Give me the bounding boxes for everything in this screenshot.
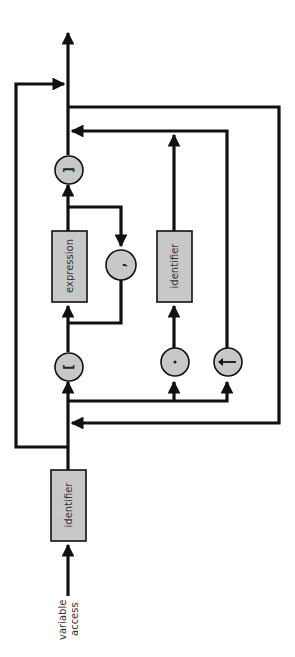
open-bracket-glyph: [ [62, 364, 76, 369]
expression-box: expression [52, 231, 87, 302]
pointer-terminal [214, 348, 242, 376]
syntax-diagram: identifier [ expression , ] [0, 0, 295, 657]
dot-terminal [161, 348, 189, 376]
dot-glyph [173, 360, 176, 363]
entry-identifier-label: identifier [63, 482, 74, 528]
inner-return-loop [72, 131, 227, 348]
entry-identifier-box: identifier [51, 470, 86, 541]
comma-glyph: , [114, 263, 128, 268]
close-bracket-glyph: ] [62, 167, 76, 172]
close-bracket-terminal: ] [55, 156, 83, 184]
entry-label-line2: access [69, 602, 80, 636]
field-identifier-label: identifier [169, 243, 180, 289]
expression-label: expression [64, 239, 75, 293]
entry-label-line1: variable [57, 600, 68, 640]
open-bracket-terminal: [ [55, 353, 83, 381]
selector-branch [68, 382, 227, 401]
field-identifier-box: identifier [157, 231, 192, 302]
entry-label: variable access [57, 600, 80, 640]
